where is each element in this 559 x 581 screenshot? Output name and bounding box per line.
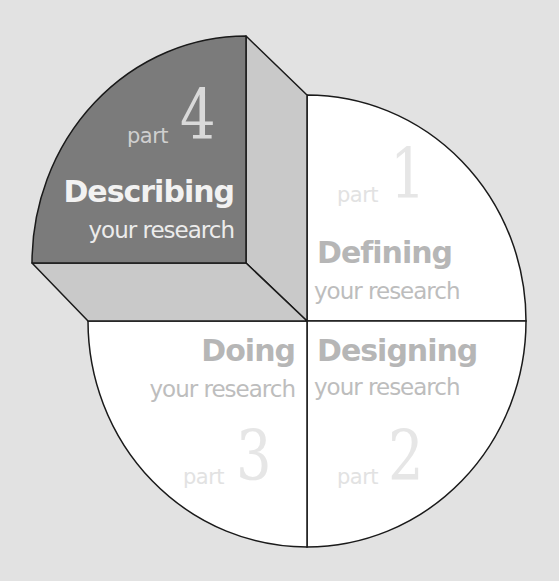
part2-title: Designing [317,336,477,366]
part3-number: 3 [236,421,272,491]
research-cycle-diagram [0,0,559,581]
part1-number: 1 [390,139,426,209]
part2-number: 2 [388,421,424,491]
part1-title: Defining [317,238,452,268]
part4-number: 4 [180,80,216,150]
part2-subtitle: your research [314,376,460,399]
part3-title: Doing [201,336,295,366]
part3-subtitle: your research [149,378,295,401]
part3-label: part [183,467,224,488]
part4-title: Describing [63,177,234,207]
part2-label: part [337,467,378,488]
part4-subtitle: your research [88,219,234,242]
part1-label: part [337,185,378,206]
part4-label: part [127,126,168,147]
part1-subtitle: your research [314,280,460,303]
